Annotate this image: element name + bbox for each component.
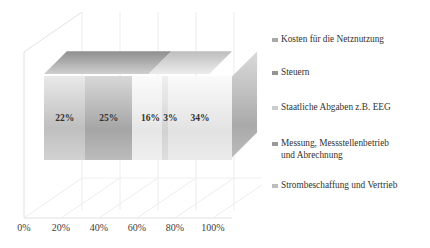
x-axis-labels: 0% 20% 40% 60% 80% 100% <box>0 222 262 244</box>
axis-tick-60: 60% <box>128 222 146 233</box>
floor-diagonal-40 <box>99 178 158 218</box>
bar-segment-5-label: 34% <box>191 113 210 123</box>
legend-item-steuern[interactable]: Steuern <box>272 67 430 79</box>
legend-marker-icon <box>272 71 278 75</box>
axis-tick-0: 0% <box>17 222 30 233</box>
bar-front-face: 22% 25% 16% 3% 34% <box>44 76 232 160</box>
legend: Kosten für die Netznutzung Steuern Staat… <box>272 26 430 206</box>
legend-item-strombeschaffung[interactable]: Strombeschaffung und Vertrieb <box>272 180 430 192</box>
bar-top-face <box>44 50 232 76</box>
floor-diagonal-20 <box>61 178 120 218</box>
bar-segment-5: 34% <box>168 76 232 160</box>
legend-marker-icon <box>272 38 278 42</box>
legend-item-label: Staatliche Abgaben z.B. EEG <box>281 102 391 114</box>
bar-segment-2-label: 25% <box>99 113 118 123</box>
legend-marker-icon <box>272 184 278 188</box>
bar-segment-2: 25% <box>85 76 132 160</box>
legend-item-label: Messung, Messstellenbetrieb und Abrechnu… <box>281 138 389 161</box>
bar-segment-4-label: 3% <box>163 113 177 123</box>
axis-tick-80: 80% <box>166 222 184 233</box>
legend-item-label: Steuern <box>281 67 309 79</box>
legend-marker-icon <box>272 106 278 110</box>
floor-diagonal-80 <box>175 178 234 218</box>
legend-item-staatliche-abgaben[interactable]: Staatliche Abgaben z.B. EEG <box>272 102 430 114</box>
axis-tick-20: 20% <box>52 222 70 233</box>
legend-item-messung[interactable]: Messung, Messstellenbetrieb und Abrechnu… <box>272 138 430 161</box>
axis-tick-40: 40% <box>90 222 108 233</box>
legend-item-label: Kosten für die Netznutzung <box>281 34 384 46</box>
floor-diagonal-0 <box>24 178 82 218</box>
bar-segment-3: 16% <box>132 76 162 160</box>
bar-segment-3-label: 16% <box>141 113 160 123</box>
stacked-bar-chart-3d: 22% 25% 16% 3% 34% <box>0 0 430 248</box>
axis-tick-100: 100% <box>201 222 224 233</box>
wall-top-diagonal <box>24 12 82 52</box>
bar-side-face <box>232 50 258 160</box>
bar-segment-1: 22% <box>44 76 85 160</box>
legend-item-label: Strombeschaffung und Vertrieb <box>281 180 397 192</box>
bar-segment-1-label: 22% <box>55 113 74 123</box>
legend-marker-icon <box>272 142 278 146</box>
bar-3d: 22% 25% 16% 3% 34% <box>44 76 232 160</box>
bar-side-face-poly <box>232 52 257 158</box>
legend-item-netznutzung[interactable]: Kosten für die Netznutzung <box>272 34 430 46</box>
floor-diagonal-60 <box>137 178 196 218</box>
floor-diagonal-100 <box>213 185 262 218</box>
